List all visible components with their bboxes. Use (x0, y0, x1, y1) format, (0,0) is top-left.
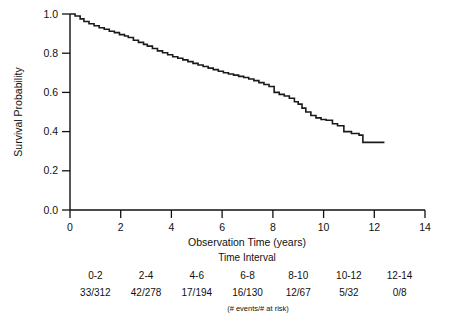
risk-table-title: Time Interval (218, 252, 275, 263)
y-tick-label-4: 0.8 (43, 47, 58, 59)
risk-col-label-2: 4-6 (190, 270, 205, 281)
y-tick-label-3: 0.6 (43, 86, 58, 98)
y-tick-label-5: 1.0 (43, 8, 58, 20)
x-tick-labels: 0 2 4 6 8 10 12 14 (67, 221, 431, 233)
y-tick-label-1: 0.2 (43, 164, 58, 176)
x-axis: 0 2 4 6 8 10 12 14 Observation Time (yea… (67, 210, 431, 248)
risk-col-label-4: 8-10 (288, 270, 308, 281)
survival-curve-figure: Survival Probability 0.0 0.2 0.4 0.6 0.8… (0, 0, 455, 326)
y-tick-labels: 0.0 0.2 0.4 0.6 0.8 1.0 (43, 8, 58, 216)
x-tick-label-3: 6 (219, 221, 225, 233)
risk-value-1: 42/278 (131, 287, 162, 298)
risk-col-label-1: 2-4 (139, 270, 154, 281)
y-ticks (62, 14, 70, 210)
y-axis: 0.0 0.2 0.4 0.6 0.8 1.0 (43, 8, 70, 216)
y-axis-title-group: Survival Probability (12, 67, 24, 157)
risk-col-label-3: 6-8 (240, 270, 255, 281)
risk-col-label-6: 12-14 (387, 270, 413, 281)
y-axis-title: Survival Probability (12, 67, 24, 157)
x-tick-label-7: 14 (419, 221, 431, 233)
y-tick-label-0: 0.0 (43, 204, 58, 216)
risk-table-headers: 0-2 2-4 4-6 6-8 8-10 10-12 12-14 (88, 270, 413, 281)
risk-value-4: 12/67 (286, 287, 311, 298)
x-tick-label-0: 0 (67, 221, 73, 233)
risk-table-values: 33/312 42/278 17/194 16/130 12/67 5/32 0… (80, 287, 407, 298)
x-axis-title: Observation Time (years) (188, 236, 306, 248)
x-tick-label-2: 4 (168, 221, 174, 233)
x-tick-label-1: 2 (118, 221, 124, 233)
y-tick-label-2: 0.4 (43, 125, 58, 137)
x-tick-label-4: 8 (270, 221, 276, 233)
risk-value-3: 16/130 (232, 287, 263, 298)
x-ticks (70, 210, 425, 218)
risk-col-label-5: 10-12 (336, 270, 362, 281)
chart-svg: Survival Probability 0.0 0.2 0.4 0.6 0.8… (0, 0, 455, 326)
risk-table-footnote: (# events/# at risk) (227, 304, 289, 313)
x-tick-label-5: 10 (318, 221, 330, 233)
risk-value-6: 0/8 (393, 287, 407, 298)
x-tick-label-6: 12 (368, 221, 380, 233)
risk-value-5: 5/32 (339, 287, 359, 298)
risk-value-2: 17/194 (182, 287, 213, 298)
survival-curve (70, 14, 384, 142)
risk-table: Time Interval 0-2 2-4 4-6 6-8 8-10 10-12… (80, 252, 413, 313)
risk-col-label-0: 0-2 (88, 270, 103, 281)
risk-value-0: 33/312 (80, 287, 111, 298)
